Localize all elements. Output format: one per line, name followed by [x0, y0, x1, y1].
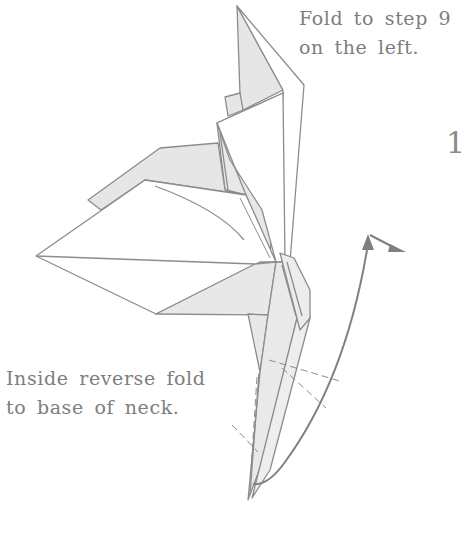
instruction-line: Fold to step 9 [299, 4, 451, 33]
origami-model-drawing [0, 0, 476, 556]
push-arrow-head [388, 244, 406, 252]
step-number: 1 [446, 126, 465, 160]
instruction-line: on the left. [299, 33, 451, 62]
instruction-line: to base of neck. [6, 393, 206, 422]
origami-diagram: Fold to step 9 on the left. 1 Inside rev… [0, 0, 476, 556]
instruction-inside-reverse-fold: Inside reverse fold to base of neck. [6, 364, 206, 422]
instruction-line: Inside reverse fold [6, 364, 206, 393]
instruction-fold-to-step: Fold to step 9 on the left. [299, 4, 451, 62]
